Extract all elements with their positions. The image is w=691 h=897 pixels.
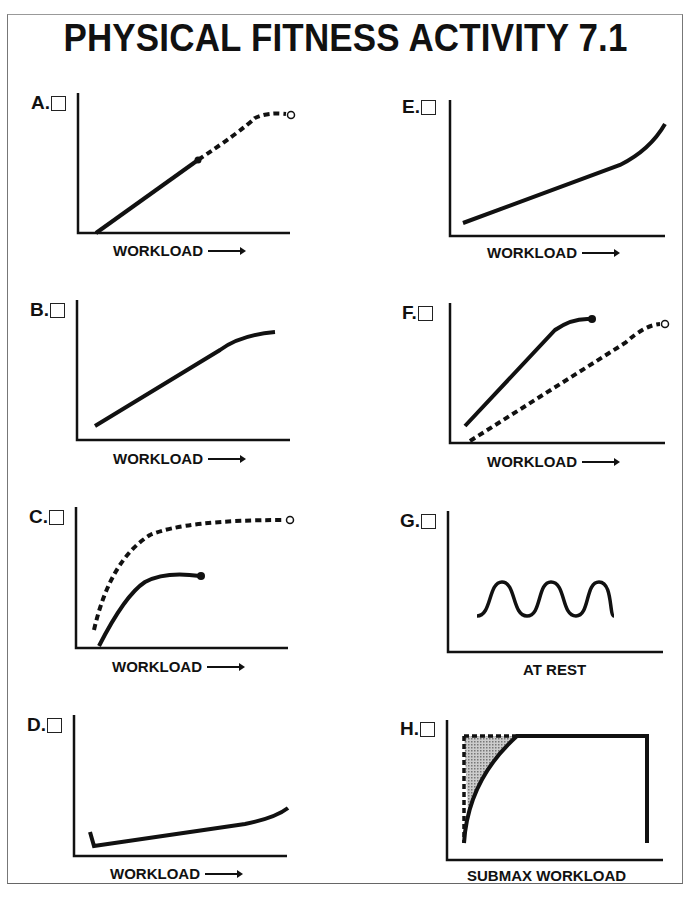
panel-h-xlabel: SUBMAX WORKLOAD — [467, 867, 626, 884]
panel-h-xlabel-text: SUBMAX WORKLOAD — [467, 867, 626, 884]
panel-h-graph — [0, 0, 691, 897]
